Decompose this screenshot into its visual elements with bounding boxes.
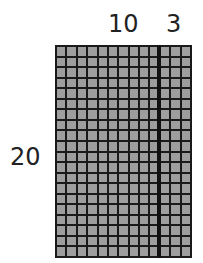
grid-cell bbox=[88, 110, 96, 119]
grid-cell bbox=[57, 184, 65, 193]
grid-cell bbox=[130, 163, 138, 172]
grid-cell bbox=[67, 58, 75, 67]
grid-cell bbox=[182, 58, 190, 67]
grid-cell bbox=[171, 216, 179, 225]
grid-cell bbox=[67, 121, 75, 130]
row-count-label: 20 bbox=[10, 145, 41, 169]
grid-cell bbox=[171, 79, 179, 88]
grid-cell bbox=[99, 100, 107, 109]
grid-cell bbox=[130, 68, 138, 77]
grid-cell bbox=[88, 226, 96, 235]
grid-cell bbox=[78, 110, 86, 119]
grid-cell bbox=[182, 79, 190, 88]
grid-cell bbox=[161, 131, 169, 140]
grid-cell bbox=[57, 89, 65, 98]
grid-cell bbox=[88, 89, 96, 98]
grid-cell bbox=[182, 47, 190, 56]
grid-cell bbox=[119, 110, 127, 119]
grid-cell bbox=[109, 100, 117, 109]
grid-cell bbox=[161, 226, 169, 235]
grid-cell bbox=[78, 237, 86, 246]
grid-cell bbox=[161, 174, 169, 183]
grid-cell bbox=[109, 89, 117, 98]
grid-cell bbox=[88, 237, 96, 246]
grid-cell bbox=[119, 79, 127, 88]
grid-cell bbox=[130, 79, 138, 88]
grid-cell bbox=[109, 68, 117, 77]
grid-cell bbox=[99, 89, 107, 98]
grid-cell bbox=[140, 142, 148, 151]
grid-cell bbox=[109, 216, 117, 225]
grid-cell bbox=[171, 195, 179, 204]
grid-cell bbox=[130, 142, 138, 151]
grid-cell bbox=[130, 58, 138, 67]
grid-cell bbox=[161, 195, 169, 204]
grid-cell bbox=[67, 89, 75, 98]
grid-cell bbox=[57, 131, 65, 140]
grid-cell bbox=[130, 195, 138, 204]
grid-cell bbox=[130, 89, 138, 98]
grid-cell bbox=[78, 79, 86, 88]
grid-cell bbox=[57, 110, 65, 119]
grid-cell bbox=[161, 184, 169, 193]
grid-cell bbox=[140, 237, 148, 246]
grid-cell bbox=[99, 237, 107, 246]
grid-cell bbox=[67, 247, 75, 256]
grid-cell bbox=[78, 226, 86, 235]
grid-cell bbox=[78, 100, 86, 109]
grid-cell bbox=[109, 163, 117, 172]
grid-cell bbox=[182, 226, 190, 235]
grid-cell bbox=[99, 205, 107, 214]
grid-cell bbox=[140, 184, 148, 193]
grid-cell bbox=[109, 153, 117, 162]
grid-cell bbox=[182, 247, 190, 256]
grid-cell bbox=[140, 174, 148, 183]
grid-cell bbox=[140, 131, 148, 140]
grid-cell bbox=[67, 100, 75, 109]
grid-cell bbox=[99, 47, 107, 56]
grid-cell bbox=[57, 68, 65, 77]
grid-cell bbox=[67, 47, 75, 56]
grid-cell bbox=[67, 79, 75, 88]
grid-cell bbox=[57, 195, 65, 204]
grid-cell bbox=[67, 110, 75, 119]
grid-cell bbox=[182, 205, 190, 214]
grid-cell bbox=[130, 237, 138, 246]
grid-cell bbox=[119, 131, 127, 140]
grid-cell bbox=[182, 195, 190, 204]
grid-cell bbox=[119, 142, 127, 151]
grid-cell bbox=[140, 195, 148, 204]
grid-cell bbox=[99, 121, 107, 130]
grid-cell bbox=[88, 121, 96, 130]
grid-cell bbox=[67, 174, 75, 183]
grid-cell bbox=[140, 68, 148, 77]
grid-cell bbox=[57, 205, 65, 214]
grid-cell bbox=[119, 47, 127, 56]
grid-cell bbox=[119, 121, 127, 130]
grid-cell bbox=[109, 131, 117, 140]
grid-cell bbox=[140, 79, 148, 88]
grid-cell bbox=[140, 110, 148, 119]
grid-cell bbox=[130, 153, 138, 162]
grid-cell bbox=[182, 131, 190, 140]
grid-cell bbox=[99, 131, 107, 140]
grid-cell bbox=[140, 216, 148, 225]
grid-cell bbox=[119, 195, 127, 204]
grid-cell bbox=[57, 163, 65, 172]
grid-cell bbox=[99, 247, 107, 256]
grid-cell bbox=[119, 205, 127, 214]
grid-cell bbox=[182, 68, 190, 77]
grid-cell bbox=[171, 184, 179, 193]
grid-cell bbox=[182, 163, 190, 172]
grid-cell bbox=[182, 174, 190, 183]
grid-cell bbox=[78, 142, 86, 151]
grid-cell bbox=[182, 89, 190, 98]
grid-cell bbox=[182, 100, 190, 109]
grid-cell bbox=[182, 121, 190, 130]
grid-cell bbox=[171, 89, 179, 98]
grid-cell bbox=[109, 79, 117, 88]
grid-cell bbox=[88, 195, 96, 204]
grid-cell bbox=[130, 110, 138, 119]
grid-cell bbox=[78, 58, 86, 67]
grid-cell bbox=[171, 100, 179, 109]
